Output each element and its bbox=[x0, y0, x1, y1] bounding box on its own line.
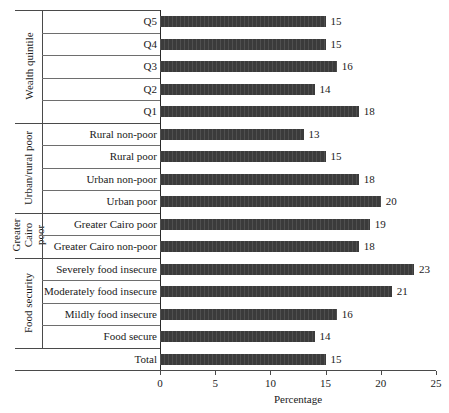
row-separator bbox=[42, 280, 160, 281]
bar bbox=[160, 309, 337, 320]
group-label-text: Urban/rural poor bbox=[23, 130, 35, 204]
bar-value-label: 20 bbox=[386, 192, 397, 210]
bar-row: 16 bbox=[160, 303, 436, 327]
bar bbox=[160, 61, 337, 72]
row-separator bbox=[42, 78, 160, 79]
x-tick-label: 15 bbox=[311, 376, 341, 390]
bar bbox=[160, 106, 359, 117]
bar bbox=[160, 84, 315, 95]
bar-chart: Wealth quintileUrban/rural poorGreater C… bbox=[0, 0, 449, 413]
category-label: Q1 bbox=[144, 104, 157, 118]
bar-value-label: 15 bbox=[331, 35, 342, 53]
x-axis-title: Percentage bbox=[160, 392, 436, 406]
bar-row: 15 bbox=[160, 348, 436, 372]
bar-value-label: 19 bbox=[375, 215, 386, 233]
category-label: Food secure bbox=[104, 329, 157, 343]
category-label: Moderately food insecure bbox=[44, 284, 157, 298]
x-tick-label: 20 bbox=[366, 376, 396, 390]
bar-value-label: 15 bbox=[331, 12, 342, 30]
bar-value-label: 18 bbox=[364, 237, 375, 255]
group-label-text: Wealth quintile bbox=[23, 33, 35, 100]
bar-row: 18 bbox=[160, 100, 436, 124]
group-label: Greater Cairo poor bbox=[15, 213, 42, 258]
category-block-bottom-rule bbox=[15, 370, 160, 371]
row-separator bbox=[42, 33, 160, 34]
category-label: Q5 bbox=[144, 14, 157, 28]
category-label: Rural poor bbox=[110, 149, 157, 163]
category-label: Urban poor bbox=[107, 194, 157, 208]
bar-row: 15 bbox=[160, 33, 436, 57]
group-label: Food security bbox=[15, 258, 42, 348]
x-tick bbox=[326, 371, 327, 375]
bar bbox=[160, 354, 326, 365]
bar-row: 18 bbox=[160, 168, 436, 192]
bar-row: 16 bbox=[160, 55, 436, 79]
group-label: Urban/rural poor bbox=[15, 123, 42, 213]
bar-row: 20 bbox=[160, 190, 436, 214]
bar-row: 15 bbox=[160, 145, 436, 169]
group-label-text: Food security bbox=[23, 272, 35, 332]
row-separator bbox=[42, 55, 160, 56]
category-label: Q4 bbox=[144, 37, 157, 51]
bar-value-label: 13 bbox=[309, 125, 320, 143]
row-separator bbox=[42, 100, 160, 101]
bar bbox=[160, 331, 315, 342]
x-tick-label: 0 bbox=[145, 376, 175, 390]
category-label: Greater Cairo poor bbox=[74, 217, 157, 231]
row-separator bbox=[42, 190, 160, 191]
bar bbox=[160, 219, 370, 230]
category-label: Rural non-poor bbox=[89, 127, 157, 141]
row-separator bbox=[42, 168, 160, 169]
bar-row: 18 bbox=[160, 235, 436, 259]
bar bbox=[160, 151, 326, 162]
bar-value-label: 21 bbox=[397, 282, 408, 300]
x-tick bbox=[436, 371, 437, 375]
bar-value-label: 15 bbox=[331, 350, 342, 368]
bar-value-label: 15 bbox=[331, 147, 342, 165]
bar-value-label: 16 bbox=[342, 57, 353, 75]
category-label: Severely food insecure bbox=[56, 262, 157, 276]
bar bbox=[160, 264, 414, 275]
x-tick bbox=[381, 371, 382, 375]
bar bbox=[160, 241, 359, 252]
plot-area: 15151614181315182019182321161415 bbox=[160, 10, 436, 370]
category-label: Urban non-poor bbox=[86, 172, 157, 186]
x-tick-label: 25 bbox=[421, 376, 449, 390]
category-label: Mildly food insecure bbox=[65, 307, 157, 321]
bar-row: 14 bbox=[160, 78, 436, 102]
bar bbox=[160, 39, 326, 50]
category-label: Q3 bbox=[144, 59, 157, 73]
bar-row: 21 bbox=[160, 280, 436, 304]
bar-value-label: 16 bbox=[342, 305, 353, 323]
row-separator bbox=[42, 235, 160, 236]
bar bbox=[160, 196, 381, 207]
x-tick bbox=[160, 371, 161, 375]
bar-value-label: 18 bbox=[364, 170, 375, 188]
bar bbox=[160, 174, 359, 185]
row-separator bbox=[42, 303, 160, 304]
bar-row: 15 bbox=[160, 10, 436, 34]
category-label: Greater Cairo non-poor bbox=[54, 239, 157, 253]
bar-value-label: 14 bbox=[320, 327, 331, 345]
bar-value-label: 14 bbox=[320, 80, 331, 98]
group-separator bbox=[15, 258, 160, 259]
group-separator bbox=[15, 123, 160, 124]
bar-value-label: 18 bbox=[364, 102, 375, 120]
row-separator bbox=[42, 145, 160, 146]
category-label: Total bbox=[135, 352, 157, 366]
bar-row: 19 bbox=[160, 213, 436, 237]
group-divider bbox=[42, 10, 43, 123]
row-separator bbox=[42, 325, 160, 326]
x-tick-label: 5 bbox=[200, 376, 230, 390]
bar-row: 13 bbox=[160, 123, 436, 147]
x-tick-label: 10 bbox=[255, 376, 285, 390]
bar bbox=[160, 129, 304, 140]
bar-row: 14 bbox=[160, 325, 436, 349]
x-tick bbox=[270, 371, 271, 375]
bar bbox=[160, 286, 392, 297]
group-label: Wealth quintile bbox=[15, 10, 42, 123]
group-separator bbox=[15, 213, 160, 214]
category-label: Q2 bbox=[144, 82, 157, 96]
bar bbox=[160, 16, 326, 27]
bar-value-label: 23 bbox=[419, 260, 430, 278]
